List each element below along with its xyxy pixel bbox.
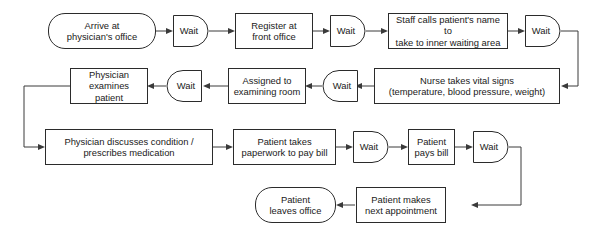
delay-shape-icon <box>353 131 389 163</box>
node-register-at-front-office[interactable]: Register at front office <box>235 13 313 49</box>
node-patient-pays-bill[interactable]: Patient pays bill <box>408 129 455 165</box>
arrow-wait6-to-paysbill <box>389 144 408 150</box>
delay-shape-icon <box>473 131 509 163</box>
node-wait-7[interactable]: Wait <box>473 131 509 163</box>
node-arrive-at-physicians-office[interactable]: Arrive at physician's office <box>48 13 156 49</box>
node-label: Patient pays bill <box>415 136 449 159</box>
node-label: Register at front office <box>251 20 296 43</box>
delay-shape-icon <box>166 70 202 102</box>
arrow-wait5-to-physicianexamines <box>147 83 166 89</box>
arrow-wait4-to-assignedroom <box>305 83 322 89</box>
node-label: Patient takes paperwork to pay bill <box>242 136 328 159</box>
node-label: Physician examines patient <box>74 69 144 103</box>
node-label: Nurse takes vital signs (temperature, bl… <box>389 75 545 98</box>
arrow-staffcalls-to-wait3 <box>508 28 525 34</box>
node-label: Physician discusses condition / prescrib… <box>64 136 193 159</box>
node-physician-discusses-condition[interactable]: Physician discusses condition / prescrib… <box>45 129 213 165</box>
delay-shape-icon <box>322 70 358 102</box>
arrow-paysbill-to-wait7 <box>455 144 473 150</box>
node-label: Assigned to examining room <box>234 75 301 98</box>
delay-shape-icon <box>173 15 209 47</box>
node-wait-5[interactable]: Wait <box>166 70 202 102</box>
node-physician-examines-patient[interactable]: Physician examines patient <box>70 68 148 104</box>
node-staff-calls-patient-name[interactable]: Staff calls patient's name to take to in… <box>388 13 508 49</box>
node-label: Patient makes next appointment <box>365 194 437 217</box>
connector-row1-to-row2 <box>560 31 578 89</box>
delay-shape-icon <box>525 15 561 47</box>
node-patient-leaves-office[interactable]: Patient leaves office <box>255 187 336 223</box>
node-wait-4[interactable]: Wait <box>322 70 358 102</box>
arrow-register-to-wait2 <box>313 28 330 34</box>
arrow-nextappointment-to-leaves <box>336 202 355 208</box>
flowchart-canvas: Arrive at physician's office Wait Regist… <box>0 0 602 240</box>
arrow-assignedroom-to-wait5 <box>203 83 228 89</box>
delay-shape-icon <box>330 15 366 47</box>
node-label: Patient leaves office <box>270 194 322 217</box>
node-wait-6[interactable]: Wait <box>353 131 389 163</box>
arrow-wait1-to-register <box>209 28 235 34</box>
arrow-wait2-to-staffcalls <box>366 28 388 34</box>
node-wait-3[interactable]: Wait <box>525 15 561 47</box>
node-patient-takes-paperwork[interactable]: Patient takes paperwork to pay bill <box>233 129 336 165</box>
node-patient-makes-next-appointment[interactable]: Patient makes next appointment <box>356 187 446 223</box>
node-nurse-takes-vital-signs[interactable]: Nurse takes vital signs (temperature, bl… <box>374 68 560 104</box>
arrow-paperwork-to-wait6 <box>336 144 353 150</box>
node-wait-1[interactable]: Wait <box>173 15 209 47</box>
node-assigned-to-examining-room[interactable]: Assigned to examining room <box>228 68 306 104</box>
node-label: Arrive at physician's office <box>67 20 137 43</box>
arrow-arrive-to-wait1 <box>156 28 173 34</box>
node-wait-2[interactable]: Wait <box>330 15 366 47</box>
node-label: Staff calls patient's name to take to in… <box>392 14 504 48</box>
arrow-discusses-to-paperwork <box>213 144 233 150</box>
